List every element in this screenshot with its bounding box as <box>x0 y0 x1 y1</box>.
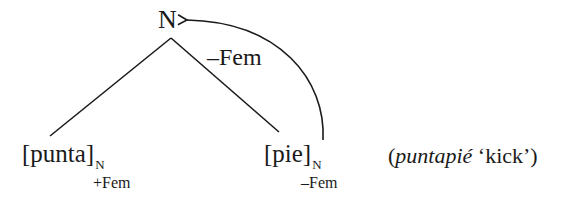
leaf-pie: [pie]N <box>264 141 322 171</box>
leaf-pie-feature: –Fem <box>301 175 337 191</box>
gloss: (puntapié ‘kick’) <box>388 145 538 167</box>
leaf-category: N <box>312 157 321 172</box>
gloss-word: puntapié <box>395 143 472 168</box>
leaf-category: N <box>95 157 104 172</box>
left-branch <box>50 38 171 136</box>
leaf-punta: [punta]N <box>22 141 105 171</box>
gloss-translation: ‘kick’) <box>472 143 537 168</box>
arc-feature-label: –Fem <box>207 45 262 69</box>
leaf-punta-feature: +Fem <box>93 175 130 191</box>
feature-percolation-arc <box>187 20 323 140</box>
root-node-label: N <box>158 7 177 33</box>
leaf-stem: [pie] <box>264 140 311 167</box>
leaf-stem: [punta] <box>22 140 94 167</box>
